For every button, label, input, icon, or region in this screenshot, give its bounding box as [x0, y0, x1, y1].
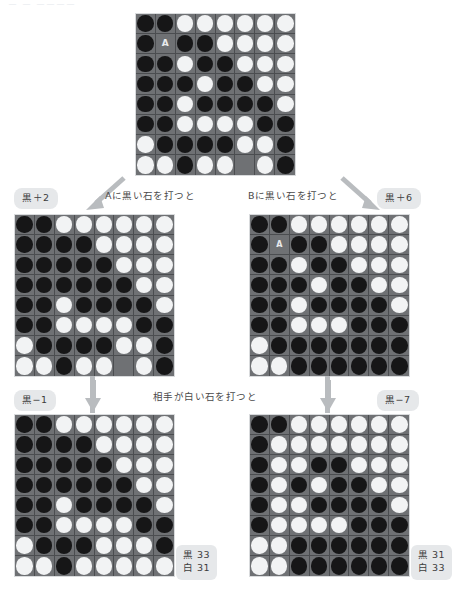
board-cell-black[interactable]	[275, 155, 295, 175]
board-cell-black[interactable]	[136, 115, 156, 135]
board-cell-black[interactable]	[310, 255, 330, 275]
board-cell-black[interactable]	[369, 316, 389, 336]
board-cell-black[interactable]	[369, 336, 389, 356]
board-cell-black[interactable]	[35, 435, 55, 455]
board-cell-black[interactable]	[134, 296, 154, 316]
board-cell-black[interactable]	[330, 255, 350, 275]
board-cell-white[interactable]	[275, 14, 295, 34]
board-cell-black[interactable]	[275, 135, 295, 155]
board-cell-black[interactable]	[196, 135, 216, 155]
board-cell-white[interactable]	[235, 115, 255, 135]
board-cell-white[interactable]	[290, 455, 310, 475]
board-cell-black[interactable]	[330, 296, 350, 316]
board-cell-white[interactable]	[114, 316, 134, 336]
board-cell-black[interactable]	[389, 356, 409, 376]
board-cell-black[interactable]	[310, 336, 330, 356]
board-cell-white[interactable]	[349, 455, 369, 475]
board-cell-white[interactable]	[235, 14, 255, 34]
board-cell-white[interactable]	[235, 54, 255, 74]
board-cell-black[interactable]	[349, 516, 369, 536]
board-cell-black[interactable]	[349, 356, 369, 376]
board-cell-black[interactable]	[330, 336, 350, 356]
board-cell-white[interactable]	[310, 215, 330, 235]
board-cell-black[interactable]	[270, 316, 290, 336]
board-cell-black[interactable]	[75, 235, 95, 255]
board-cell-black[interactable]	[15, 455, 35, 475]
board-cell-white[interactable]	[310, 475, 330, 495]
board-cell-white[interactable]	[290, 496, 310, 516]
board-cell-white[interactable]	[389, 496, 409, 516]
board-cell-black[interactable]	[349, 536, 369, 556]
board-cell-black[interactable]	[369, 496, 389, 516]
board-cell-white[interactable]	[176, 54, 196, 74]
board-cell-white[interactable]	[114, 435, 134, 455]
board-cell-black[interactable]	[176, 135, 196, 155]
board-cell-black[interactable]	[290, 356, 310, 376]
board-cell-white[interactable]	[134, 475, 154, 495]
board-cell-white[interactable]	[154, 455, 174, 475]
board-cell-white[interactable]	[330, 316, 350, 336]
board-cell-white[interactable]	[255, 34, 275, 54]
board-cell-white[interactable]	[55, 215, 75, 235]
board-cell-white[interactable]	[114, 235, 134, 255]
board-cell-white[interactable]	[75, 316, 95, 336]
board-cell-black[interactable]	[349, 336, 369, 356]
board-cell-black[interactable]	[330, 455, 350, 475]
board-cell-black[interactable]	[250, 255, 270, 275]
board-cell-white[interactable]	[35, 356, 55, 376]
board-cell-black[interactable]	[75, 435, 95, 455]
board-cell-white[interactable]	[330, 435, 350, 455]
board-cell-black[interactable]	[35, 516, 55, 536]
board-cell-white[interactable]	[255, 135, 275, 155]
board-cell-white[interactable]	[369, 275, 389, 295]
board-cell-black[interactable]	[136, 34, 156, 54]
board-cell-black[interactable]	[216, 95, 236, 115]
board-cell-white[interactable]	[134, 455, 154, 475]
board-cell-black[interactable]	[389, 516, 409, 536]
board-cell-white[interactable]	[275, 34, 295, 54]
board-cell-white[interactable]	[216, 115, 236, 135]
board-cell-white[interactable]	[15, 536, 35, 556]
board-cell-white[interactable]	[15, 356, 35, 376]
board-cell-black[interactable]	[154, 516, 174, 536]
board-cell-white[interactable]	[290, 215, 310, 235]
board-cell-white[interactable]	[290, 516, 310, 536]
board-cell-white[interactable]	[134, 275, 154, 295]
board-cell-black[interactable]	[310, 496, 330, 516]
board-cell-black[interactable]	[310, 536, 330, 556]
board-cell-white[interactable]	[330, 516, 350, 536]
board-cell-black[interactable]	[250, 455, 270, 475]
board-cell-black[interactable]	[35, 496, 55, 516]
board-cell-black[interactable]	[55, 255, 75, 275]
board-cell-white[interactable]	[255, 155, 275, 175]
board-cell-black[interactable]	[196, 95, 216, 115]
board-cell-white[interactable]	[389, 296, 409, 316]
board-cell-white[interactable]	[369, 215, 389, 235]
board-cell-black[interactable]	[114, 475, 134, 495]
board-cell-white[interactable]	[95, 356, 115, 376]
board-cell-white[interactable]	[75, 415, 95, 435]
board-cell-white[interactable]	[55, 516, 75, 536]
board-cell-black[interactable]	[35, 296, 55, 316]
board-cell-black[interactable]	[75, 275, 95, 295]
board-cell-white[interactable]	[270, 536, 290, 556]
board-cell-black[interactable]	[270, 215, 290, 235]
board-cell-black[interactable]	[270, 296, 290, 316]
board-cell-white[interactable]	[95, 235, 115, 255]
board-cell-black[interactable]	[196, 34, 216, 54]
board-cell-black[interactable]	[389, 336, 409, 356]
board-cell-white[interactable]	[270, 556, 290, 576]
board-cell-white[interactable]	[196, 74, 216, 94]
board-cell-black[interactable]	[250, 496, 270, 516]
board-cell-white[interactable]	[270, 356, 290, 376]
board-cell-white[interactable]	[369, 435, 389, 455]
board-cell-black[interactable]	[15, 435, 35, 455]
board-cell-black[interactable]	[95, 275, 115, 295]
board-cell-white[interactable]	[154, 296, 174, 316]
board-cell-white[interactable]	[330, 215, 350, 235]
board-cell-white[interactable]	[95, 215, 115, 235]
board-cell-white[interactable]	[136, 135, 156, 155]
board-cell-black[interactable]	[349, 316, 369, 336]
board-cell-black[interactable]	[136, 95, 156, 115]
board-cell-black[interactable]	[75, 336, 95, 356]
